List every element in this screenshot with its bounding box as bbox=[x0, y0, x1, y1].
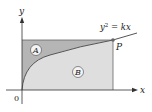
origin-label: 0 bbox=[14, 94, 19, 103]
region-a-label: A bbox=[32, 46, 39, 55]
equation-rhs: = kx bbox=[108, 22, 131, 32]
point-p-marker bbox=[111, 38, 115, 42]
x-axis-arrow-icon bbox=[132, 88, 138, 92]
curve-equation: y2 = kx bbox=[99, 22, 131, 33]
y-axis-label: y bbox=[18, 6, 25, 16]
y-axis-arrow-icon bbox=[20, 17, 24, 23]
point-p-label: P bbox=[115, 42, 123, 52]
diagram-canvas: A B y x 0 P y2 = kx bbox=[0, 0, 152, 112]
x-axis-label: x bbox=[140, 85, 145, 95]
region-b-label: B bbox=[74, 68, 81, 77]
